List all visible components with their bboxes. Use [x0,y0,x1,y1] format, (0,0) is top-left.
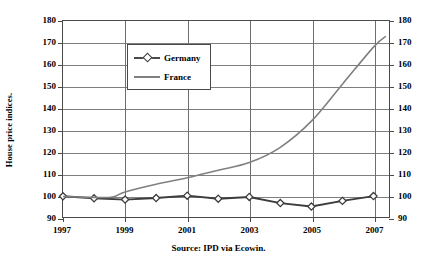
x-tick [375,217,376,222]
y-tick-right [389,197,394,198]
y-tick-label-right: 150 [398,82,424,91]
y-tick-right [389,87,394,88]
y-axis-title-text: House price indices. [4,93,14,167]
x-tick-label: 1997 [41,226,83,235]
y-tick-label-left: 90 [30,214,56,223]
legend-line-icon [134,71,160,83]
y-tick-label-right: 120 [398,148,424,157]
data-point-marker [184,192,191,199]
data-point-marker [215,195,222,202]
y-tick-label-left: 110 [30,170,56,179]
y-tick-right [389,21,394,22]
y-tick-label-left: 130 [30,126,56,135]
data-point-marker [153,194,160,201]
y-tick-label-left: 160 [30,60,56,69]
x-tick-label: 2005 [291,226,333,235]
y-tick-label-left: 100 [30,192,56,201]
y-tick-label-right: 110 [398,170,424,179]
data-series-layer [63,21,389,217]
y-tick-right [389,65,394,66]
data-point-marker [246,193,253,200]
series-line-france [63,36,386,197]
plot-area: Germany France [62,20,390,218]
data-point-marker [277,199,284,206]
legend-item-germany: Germany [134,51,201,65]
data-point-marker [308,203,315,210]
y-tick-label-right: 90 [398,214,424,223]
y-tick-label-left: 140 [30,104,56,113]
y-tick-right [389,109,394,110]
y-tick-label-right: 140 [398,104,424,113]
y-tick-right [389,43,394,44]
y-tick-label-right: 180 [398,16,424,25]
y-axis-title: House price indices. [2,60,16,200]
source-note: Source: IPD via Ecowin. [0,243,437,253]
x-tick [313,217,314,222]
x-tick-label: 2007 [353,226,395,235]
legend-line-marker-icon [134,52,160,64]
x-tick [63,217,64,222]
data-point-marker [370,193,377,200]
y-tick-label-right: 170 [398,38,424,47]
y-tick-label-right: 160 [398,60,424,69]
chart-legend: Germany France [127,44,211,90]
data-point-marker [122,196,129,203]
y-tick-label-right: 130 [398,126,424,135]
legend-label-france: France [164,72,191,82]
x-tick-label: 2001 [166,226,208,235]
x-tick-label: 2003 [228,226,270,235]
legend-item-france: France [134,70,191,84]
data-point-marker [90,195,97,202]
y-tick-right [389,131,394,132]
x-tick [125,217,126,222]
x-tick-label: 1999 [103,226,145,235]
y-tick-right [389,219,394,220]
y-tick-label-left: 180 [30,16,56,25]
y-tick-label-left: 150 [30,82,56,91]
y-tick-right [389,153,394,154]
y-tick-label-left: 120 [30,148,56,157]
y-tick-right [389,175,394,176]
data-point-marker [339,197,346,204]
house-price-indices-chart: House price indices. 1801701601501401301… [0,0,437,270]
x-tick [188,217,189,222]
legend-label-germany: Germany [164,53,201,63]
y-tick-label-right: 100 [398,192,424,201]
x-tick [250,217,251,222]
y-tick-label-left: 170 [30,38,56,47]
